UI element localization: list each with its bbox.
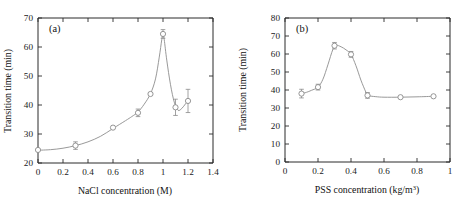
x-tick-label: 0.2 — [57, 167, 69, 177]
panel-a-y-tick-labels: 203040506070 — [24, 13, 34, 168]
data-point-marker — [148, 91, 153, 96]
panel-b-axes-frame — [285, 18, 450, 162]
chart-panel-b: 00.20.40.60.81 01020304050607080 (b) PSS… — [232, 0, 463, 210]
x-tick-label: 1 — [448, 166, 453, 176]
y-tick-label: 70 — [271, 31, 281, 41]
y-tick-label: 70 — [24, 13, 34, 23]
chart-panel-a: 00.20.40.60.811.21.4 203040506070 (a) Na… — [0, 0, 232, 210]
y-tick-label: 20 — [24, 158, 34, 168]
x-tick-label: 0.4 — [345, 166, 357, 176]
y-tick-label: 50 — [24, 71, 34, 81]
panel-b-svg: 00.20.40.60.81 01020304050607080 (b) PSS… — [232, 0, 463, 210]
panel-a-x-axis-title: NaCl concentration (M) — [78, 185, 172, 197]
panel-b-data-markers — [299, 43, 436, 100]
data-point-marker — [110, 125, 115, 130]
panel-a-fit-curve — [38, 33, 188, 150]
y-tick-label: 0 — [275, 157, 280, 167]
panel-b-x-tick-labels: 00.20.40.60.81 — [283, 166, 453, 176]
panel-a-data-markers — [35, 31, 190, 152]
panel-b-x-axis-title: PSS concentration (kg/m3) — [315, 184, 419, 196]
data-point-marker — [160, 31, 165, 36]
x-tick-label: 1.4 — [207, 167, 219, 177]
data-point-marker — [185, 98, 190, 103]
panel-a-axes-frame — [38, 18, 213, 163]
panel-b-error-bars — [299, 42, 370, 98]
x-tick-label: 0 — [283, 166, 288, 176]
panel-a-y-axis-title: Transition time (min) — [2, 49, 14, 133]
data-point-marker — [135, 110, 140, 115]
y-tick-label: 20 — [271, 121, 281, 131]
data-point-marker — [315, 85, 320, 90]
x-tick-label: 0.8 — [132, 167, 144, 177]
panel-b-x-axis-title-base: PSS concentration (kg/m — [315, 184, 413, 196]
y-tick-label: 30 — [24, 129, 34, 139]
y-tick-label: 60 — [271, 49, 281, 59]
data-point-marker — [173, 105, 178, 110]
y-tick-label: 50 — [271, 67, 281, 77]
panel-a-y-ticks — [38, 18, 213, 163]
panel-b-y-axis-title: Transition time (min) — [237, 48, 249, 132]
data-point-marker — [348, 52, 353, 57]
y-tick-label: 30 — [271, 103, 281, 113]
x-tick-label: 1.2 — [182, 167, 194, 177]
data-point-marker — [365, 93, 370, 98]
data-point-marker — [398, 95, 403, 100]
figure-container: 00.20.40.60.811.21.4 203040506070 (a) Na… — [0, 0, 463, 210]
x-tick-label: 0 — [36, 167, 41, 177]
panel-b-y-tick-labels: 01020304050607080 — [271, 13, 281, 167]
x-tick-label: 0.6 — [378, 166, 390, 176]
y-tick-label: 10 — [271, 139, 281, 149]
panel-a-x-tick-labels: 00.20.40.60.811.21.4 — [36, 167, 219, 177]
x-tick-label: 0.8 — [411, 166, 423, 176]
data-point-marker — [299, 91, 304, 96]
x-tick-label: 0.2 — [312, 166, 324, 176]
y-tick-label: 60 — [24, 42, 34, 52]
data-point-marker — [35, 147, 40, 152]
data-point-marker — [332, 43, 337, 48]
panel-a-svg: 00.20.40.60.811.21.4 203040506070 (a) Na… — [0, 0, 232, 210]
panel-b-fit-curve — [302, 45, 434, 97]
panel-b-y-ticks — [285, 18, 450, 162]
y-tick-label: 40 — [271, 85, 281, 95]
panel-b-x-ticks — [285, 18, 450, 162]
panel-a-label: (a) — [49, 23, 61, 35]
panel-a-error-bars — [73, 30, 190, 150]
panel-b-x-axis-title-tail: ) — [416, 184, 419, 196]
panel-b-label: (b) — [296, 23, 308, 35]
y-tick-label: 80 — [271, 13, 281, 23]
panel-a-x-ticks — [38, 18, 213, 163]
y-tick-label: 40 — [24, 100, 34, 110]
data-point-marker — [431, 94, 436, 99]
x-tick-label: 1 — [161, 167, 166, 177]
data-point-marker — [73, 143, 78, 148]
x-tick-label: 0.6 — [107, 167, 119, 177]
x-tick-label: 0.4 — [82, 167, 94, 177]
